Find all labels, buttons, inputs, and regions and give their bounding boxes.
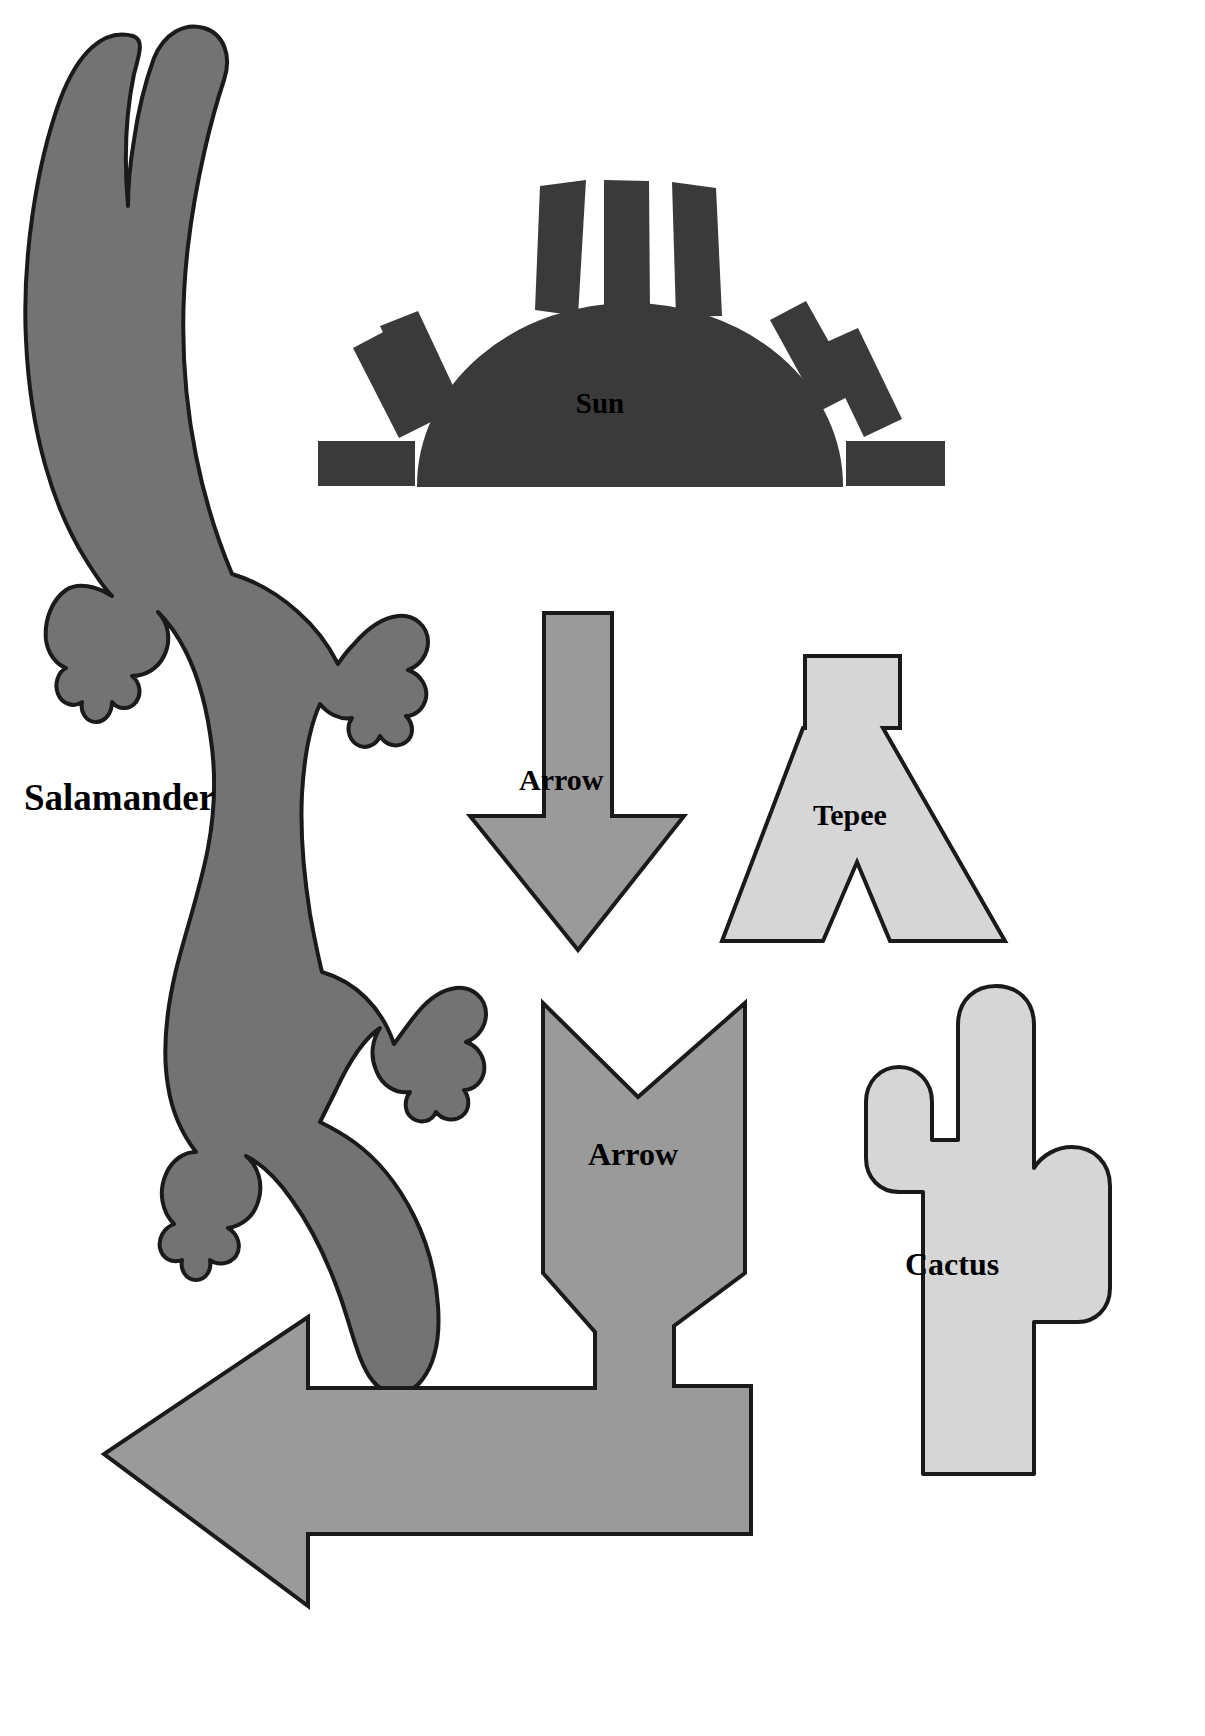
- sun-label: Sun: [576, 387, 624, 419]
- salamander-label: Salamander: [24, 777, 215, 818]
- cactus-shape[interactable]: Cactus: [866, 986, 1110, 1474]
- cactus-label: Cactus: [905, 1246, 999, 1282]
- salamander-silhouette[interactable]: [25, 26, 486, 1393]
- arrow-bent-label: Arrow: [588, 1136, 678, 1172]
- shape-sheet-canvas: Sun Arrow Tepee Arrow Cactus Salamander: [0, 0, 1205, 1736]
- arrow-down-shape[interactable]: Arrow: [470, 613, 684, 950]
- sun-ray-ul[interactable]: [535, 180, 586, 316]
- sun-shape[interactable]: Sun: [318, 180, 945, 486]
- sun-ray-ur[interactable]: [672, 182, 722, 317]
- salamander-shape[interactable]: [25, 26, 486, 1393]
- tepee-shape[interactable]: Tepee: [722, 656, 1005, 941]
- cactus-silhouette[interactable]: [866, 986, 1110, 1474]
- shapes-illustration: Sun Arrow Tepee Arrow Cactus Salamander: [0, 0, 1205, 1736]
- sun-ray-right-ground[interactable]: [846, 441, 945, 486]
- arrow-down-label: Arrow: [519, 763, 604, 796]
- sun-ray-top[interactable]: [604, 180, 650, 313]
- sun-ray-left-ground[interactable]: [318, 441, 415, 486]
- tepee-label: Tepee: [813, 798, 887, 831]
